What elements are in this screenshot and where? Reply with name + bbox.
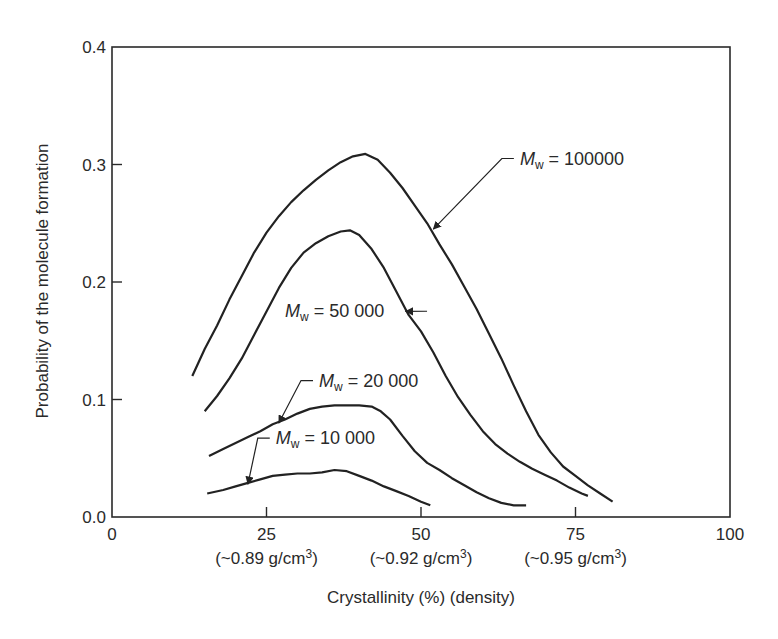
annotation-2: Mw = 20 000 — [279, 371, 418, 423]
series-label: Mw = 10 000 — [276, 428, 375, 451]
x-axis: 025(~0.89 g/cm3)50(~0.92 g/cm3)75(~0.95 … — [107, 507, 744, 568]
x-axis-label: Crystallinity (%) (density) — [327, 588, 515, 607]
x-tick-label: 25 — [257, 525, 276, 544]
plot-frame — [112, 47, 730, 517]
series-line-1 — [205, 230, 588, 496]
x-tick-label: 0 — [107, 525, 116, 544]
y-tick-label: 0.0 — [82, 508, 106, 527]
x-tick-density-label: (~0.89 g/cm3) — [215, 547, 318, 568]
plot-border — [112, 47, 730, 517]
annotation-arrow — [433, 159, 514, 230]
x-tick-label: 75 — [566, 525, 585, 544]
series-label: Mw = 50 000 — [285, 301, 384, 324]
x-tick-density-label: (~0.92 g/cm3) — [370, 547, 473, 568]
x-tick-label: 100 — [716, 525, 744, 544]
series-label: Mw = 100000 — [520, 149, 624, 172]
x-tick-label: 50 — [412, 525, 431, 544]
y-tick-label: 0.1 — [82, 391, 106, 410]
series-line-2 — [209, 405, 526, 505]
chart: 0.00.10.20.30.4 025(~0.89 g/cm3)50(~0.92… — [0, 0, 778, 639]
annotation-0: Mw = 100000 — [433, 149, 624, 230]
annotation-1: Mw = 50 000 — [285, 301, 427, 324]
y-axis: 0.00.10.20.30.4 — [82, 38, 122, 527]
x-tick-density-label: (~0.95 g/cm3) — [524, 547, 627, 568]
series-line-3 — [207, 470, 430, 505]
y-tick-label: 0.4 — [82, 38, 106, 57]
series-label: Mw = 20 000 — [319, 371, 418, 394]
series-annotations: Mw = 100000Mw = 50 000Mw = 20 000Mw = 10… — [248, 149, 624, 485]
series-lines — [192, 154, 612, 505]
annotation-arrow — [279, 381, 313, 423]
y-tick-label: 0.2 — [82, 273, 106, 292]
y-tick-label: 0.3 — [82, 156, 106, 175]
y-axis-label: Probability of the molecule formation — [33, 144, 52, 419]
